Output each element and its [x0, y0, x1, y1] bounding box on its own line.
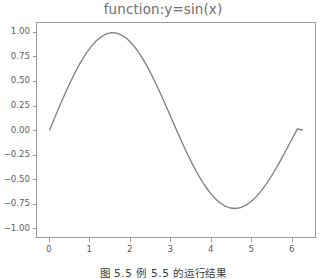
- y-tick-label: −0.25: [4, 149, 30, 159]
- y-tick-mark: [33, 204, 37, 205]
- y-tick-label: 0.00: [11, 125, 30, 135]
- chart-title: function:y=sin(x): [0, 1, 326, 17]
- x-tick-mark: [49, 238, 50, 242]
- plot-area: [36, 22, 316, 238]
- y-tick-label: −0.75: [4, 198, 30, 208]
- y-tick-label: 1.00: [11, 26, 30, 36]
- y-tick-label: 0.75: [11, 51, 30, 61]
- y-tick-label: 0.25: [11, 100, 30, 110]
- x-tick-label: 3: [168, 244, 173, 254]
- y-tick-label: 0.50: [11, 75, 30, 85]
- y-tick-mark: [33, 32, 37, 33]
- x-tick-label: 4: [208, 244, 213, 254]
- matplotlib-figure: function:y=sin(x) 图 5.5 例 5.5 的运行结果 1.00…: [0, 0, 326, 279]
- x-tick-label: 5: [249, 244, 254, 254]
- x-tick-label: 0: [46, 244, 51, 254]
- x-tick-mark: [130, 238, 131, 242]
- figure-caption: 图 5.5 例 5.5 的运行结果: [0, 265, 326, 279]
- x-tick-label: 2: [127, 244, 132, 254]
- x-tick-mark: [89, 238, 90, 242]
- x-tick-label: 1: [86, 244, 91, 254]
- x-tick-mark: [251, 238, 252, 242]
- sine-curve: [37, 23, 315, 237]
- y-tick-mark: [33, 228, 37, 229]
- y-tick-mark: [33, 130, 37, 131]
- x-tick-mark: [292, 238, 293, 242]
- y-tick-label: −0.50: [4, 174, 30, 184]
- y-tick-mark: [33, 155, 37, 156]
- y-tick-mark: [33, 106, 37, 107]
- y-tick-mark: [33, 56, 37, 57]
- x-tick-label: 6: [289, 244, 294, 254]
- y-tick-mark: [33, 81, 37, 82]
- x-tick-mark: [211, 238, 212, 242]
- x-tick-mark: [170, 238, 171, 242]
- y-tick-label: −1.00: [4, 223, 30, 233]
- y-tick-mark: [33, 179, 37, 180]
